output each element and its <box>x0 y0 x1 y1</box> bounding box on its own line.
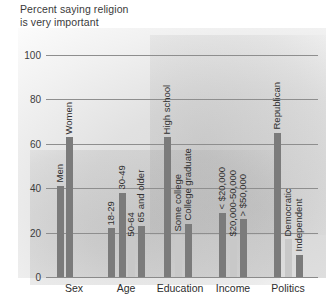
bar-label: Independent <box>294 199 304 252</box>
bar-democratic: Democratic <box>285 239 292 277</box>
group-caption-income: Income <box>216 282 250 294</box>
bar-20-000: < $20,000 <box>219 213 226 277</box>
y-axis-tick-label: 20 <box>30 227 41 238</box>
plot-area: 020406080100MenWomen18-2930-4950-6465 an… <box>46 55 318 277</box>
y-axis-tick-label: 100 <box>24 50 41 61</box>
bar-label: < $20,000 <box>217 167 227 210</box>
bar-label: College graduate <box>183 148 193 220</box>
bar-50-000: > $50,000 <box>240 219 247 277</box>
y-axis-tick-label: 80 <box>30 94 41 105</box>
bar-label: > $50,000 <box>238 174 248 217</box>
y-axis-tick-label: 40 <box>30 183 41 194</box>
bar-50-64: 50-64 <box>128 239 135 277</box>
group-caption-politics: Politics <box>271 282 304 294</box>
bar-women: Women <box>66 137 73 277</box>
y-axis-tick-label: 60 <box>30 138 41 149</box>
bar-label: Women <box>64 102 74 135</box>
bar-65-and-older: 65 and older <box>138 226 145 277</box>
bar-label: 65 and older <box>136 170 146 223</box>
gridline-100 <box>46 55 318 56</box>
gridline-0 <box>46 277 318 278</box>
bar-high-school: High school <box>164 137 171 277</box>
bar-some-college: Some college <box>175 235 182 277</box>
bar-18-29: 18-29 <box>108 228 115 277</box>
bar-men: Men <box>57 186 64 277</box>
chart-title: Percent saying religion is very importan… <box>20 3 220 28</box>
bar-label: 30-49 <box>117 165 127 189</box>
bar-label: 18-29 <box>106 201 116 225</box>
group-caption-age: Age <box>117 282 136 294</box>
bar-label: Republican <box>272 82 282 130</box>
bar-label: Men <box>55 165 65 183</box>
y-axis-tick-label: 0 <box>35 272 41 283</box>
bar-independent: Independent <box>296 255 303 277</box>
bar-label: Democratic <box>283 188 293 236</box>
bar-20-000-50-000: $20,000-50,000 <box>230 239 237 277</box>
group-caption-education: Education <box>157 282 204 294</box>
group-caption-sex: Sex <box>65 282 83 294</box>
bar-college-graduate: College graduate <box>185 224 192 277</box>
bar-label: High school <box>162 85 172 135</box>
bar-republican: Republican <box>274 133 281 277</box>
